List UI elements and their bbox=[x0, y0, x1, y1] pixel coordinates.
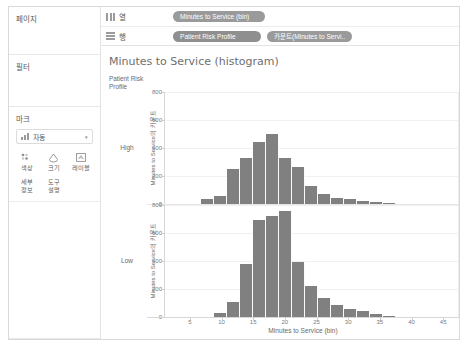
marks-label-button[interactable]: 레이블 bbox=[67, 149, 94, 175]
rows-shelf[interactable]: 행 Patient Risk Profile 카운트(Minutes to Se… bbox=[101, 26, 459, 45]
bar[interactable] bbox=[344, 309, 357, 317]
mark-type-label: 자동 bbox=[33, 132, 81, 142]
marks-color-label: 색상 bbox=[21, 164, 33, 171]
rows-pill-zone: Patient Risk Profile 카운트(Minutes to Serv… bbox=[143, 31, 352, 42]
bar[interactable] bbox=[279, 158, 292, 204]
x-tick-mark bbox=[253, 317, 254, 320]
bar[interactable] bbox=[240, 264, 253, 317]
bar[interactable] bbox=[292, 262, 305, 317]
bar[interactable] bbox=[318, 298, 331, 317]
view-area: Minutes to Service (histogram) Patient R… bbox=[101, 46, 459, 339]
marks-detail-label-line2: 정보 bbox=[21, 186, 33, 193]
row-field-line1: Patient Risk bbox=[109, 75, 459, 83]
bar[interactable] bbox=[305, 186, 318, 204]
page-title: Minutes to Service (histogram) bbox=[107, 46, 459, 75]
marks-tooltip-label-line2: 설명 bbox=[48, 186, 60, 193]
label-icon bbox=[74, 152, 87, 163]
plot-region: High Low Minutes to Service의 카운트02004006… bbox=[107, 92, 459, 339]
y-tick-label: 200 bbox=[152, 286, 162, 292]
x-tick-mark bbox=[190, 317, 191, 320]
bar[interactable] bbox=[227, 302, 240, 317]
x-axis-title: Minutes to Service (bin) bbox=[147, 327, 459, 334]
worksheet-frame: 페이지 필터 마크 자동 ▾ 색상 bbox=[8, 6, 460, 340]
rows-shelf-label: 행 bbox=[119, 31, 143, 42]
mark-type-dropdown[interactable]: 자동 ▾ bbox=[16, 129, 93, 144]
plot-canvas bbox=[164, 92, 459, 204]
row-headers: High Low bbox=[107, 92, 147, 339]
y-tick-label: 600 bbox=[152, 117, 162, 123]
columns-icon bbox=[105, 12, 116, 21]
worksheet-main: 열 Minutes to Service (bin) 행 Patient Ris… bbox=[101, 7, 459, 339]
tableau-worksheet: 페이지 필터 마크 자동 ▾ 색상 bbox=[0, 0, 468, 347]
color-palette-icon bbox=[20, 152, 33, 163]
bar[interactable] bbox=[305, 286, 318, 317]
filters-card[interactable]: 필터 bbox=[9, 55, 100, 107]
marks-label-label: 레이블 bbox=[72, 164, 90, 171]
bar[interactable] bbox=[253, 220, 266, 317]
marks-card: 마크 자동 ▾ 색상 bbox=[9, 107, 100, 339]
bar[interactable] bbox=[227, 169, 240, 204]
bar[interactable] bbox=[279, 211, 292, 317]
mark-buttons: 색상 크기 레이블 세부 bbox=[9, 149, 100, 197]
columns-pill-zone: Minutes to Service (bin) bbox=[143, 11, 265, 22]
pane-high: Minutes to Service의 카운트0200400600800 bbox=[147, 92, 459, 204]
x-tick-mark bbox=[443, 317, 444, 320]
columns-shelf-label: 열 bbox=[119, 11, 143, 22]
shelves: 열 Minutes to Service (bin) 행 Patient Ris… bbox=[101, 7, 459, 46]
bar[interactable] bbox=[318, 194, 331, 205]
marks-detail-button[interactable]: 세부 정보 bbox=[13, 175, 40, 197]
chevron-down-icon: ▾ bbox=[85, 134, 88, 140]
pill-minutes-to-service-bin[interactable]: Minutes to Service (bin) bbox=[173, 11, 265, 22]
y-tick-label: 200 bbox=[152, 173, 162, 179]
x-axis: 51015202530354045 Minutes to Service (bi… bbox=[147, 317, 459, 339]
y-tick-label: 400 bbox=[152, 145, 162, 151]
marks-card-empty-area[interactable] bbox=[9, 201, 100, 338]
panes: Minutes to Service의 카운트0200400600800Minu… bbox=[147, 92, 459, 317]
sidebar: 페이지 필터 마크 자동 ▾ 색상 bbox=[9, 7, 101, 339]
pane-low: Minutes to Service의 카운트0200400600800 bbox=[147, 204, 459, 317]
x-tick-mark bbox=[412, 317, 413, 320]
marks-tooltip-label-line1: 도구 bbox=[48, 178, 60, 185]
marks-detail-label-line1: 세부 bbox=[21, 178, 33, 185]
plot-canvas bbox=[164, 205, 459, 317]
bar-series bbox=[165, 205, 458, 317]
marks-card-title: 마크 bbox=[9, 107, 100, 128]
pages-card-title: 페이지 bbox=[9, 7, 100, 28]
bar[interactable] bbox=[240, 158, 253, 204]
bar[interactable] bbox=[331, 305, 344, 317]
pill-patient-risk-profile[interactable]: Patient Risk Profile bbox=[173, 31, 261, 42]
marks-size-label: 크기 bbox=[48, 164, 60, 171]
x-tick-mark bbox=[348, 317, 349, 320]
pages-card[interactable]: 페이지 bbox=[9, 7, 100, 55]
columns-shelf[interactable]: 열 Minutes to Service (bin) bbox=[101, 7, 459, 26]
marks-size-button[interactable]: 크기 bbox=[40, 149, 67, 175]
filters-card-title: 필터 bbox=[9, 55, 100, 76]
x-tick-mark bbox=[380, 317, 381, 320]
rows-icon bbox=[105, 32, 116, 41]
bar[interactable] bbox=[214, 196, 227, 204]
bar[interactable] bbox=[266, 216, 279, 317]
bar-series bbox=[165, 92, 458, 204]
bar[interactable] bbox=[292, 167, 305, 204]
row-header-high[interactable]: High bbox=[107, 144, 147, 151]
marks-color-button[interactable]: 색상 bbox=[13, 149, 40, 175]
y-tick-label: 400 bbox=[152, 258, 162, 264]
x-tick-mark bbox=[222, 317, 223, 320]
bar[interactable] bbox=[253, 142, 266, 204]
pill-count-minutes-to-service[interactable]: 카운트(Minutes to Servi.. bbox=[267, 31, 352, 42]
bar-chart-icon bbox=[21, 133, 29, 140]
x-tick-mark bbox=[317, 317, 318, 320]
x-tick-mark bbox=[285, 317, 286, 320]
y-tick-label: 800 bbox=[152, 202, 162, 208]
size-icon bbox=[47, 152, 60, 163]
row-header-low[interactable]: Low bbox=[107, 257, 147, 264]
axis-column: Minutes to Service의 카운트0200400600800Minu… bbox=[147, 92, 459, 339]
y-tick-label: 600 bbox=[152, 230, 162, 236]
marks-tooltip-button[interactable]: 도구 설명 bbox=[40, 175, 67, 197]
bar[interactable] bbox=[266, 134, 279, 204]
y-tick-label: 800 bbox=[152, 89, 162, 95]
